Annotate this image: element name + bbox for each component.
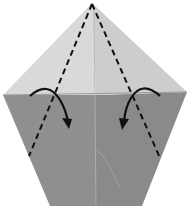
origami-diagram (0, 0, 190, 206)
diagram-canvas (0, 0, 190, 206)
